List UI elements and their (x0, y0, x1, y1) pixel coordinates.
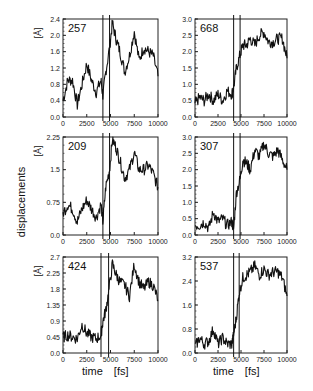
y-tick-label: 2.7 (50, 254, 60, 261)
y-tick-label: 0.9 (50, 318, 60, 325)
y-tick-label: 0.5 (182, 215, 192, 222)
figure-canvas: 0.00.40.81.21.62.02.40250050007500100002… (0, 0, 313, 391)
panel-atom-label: 209 (68, 140, 86, 152)
y-tick-label: 0.8 (182, 326, 192, 333)
x-tick-label: 5000 (103, 120, 119, 127)
x-tick-label: 7500 (126, 120, 142, 127)
displacement-series (63, 260, 158, 344)
x-tick-label: 10000 (148, 238, 168, 245)
x-tick-label: 5000 (233, 238, 249, 245)
x-tick-label: 5000 (103, 238, 119, 245)
panel-257: 0.00.40.81.21.62.02.40250050007500100002… (33, 15, 168, 127)
x-axis-label-right: time [fs] (213, 365, 260, 377)
x-axis-label-left: time [fs] (82, 365, 129, 377)
x-tick-label: 2500 (79, 356, 95, 363)
x-axis-label-unit: [fs] (114, 365, 129, 377)
x-tick-label: 2500 (210, 356, 226, 363)
y-tick-label: 1.6 (182, 302, 192, 309)
panel-atom-label: 537 (200, 260, 218, 272)
x-tick-label: 2500 (79, 120, 95, 127)
y-tick-label: 0.8 (50, 81, 60, 88)
y-tick-label: 2.5 (182, 150, 192, 157)
panel-209: 0.00.751.52.25025005000750010000209[Å] (33, 133, 168, 245)
x-tick-label: 7500 (126, 238, 142, 245)
x-axis-label-time: time (82, 365, 103, 377)
displacement-series (195, 261, 287, 350)
panel-atom-label: 424 (68, 260, 86, 272)
panel-atom-label: 257 (68, 22, 86, 34)
x-tick-label: 5000 (233, 120, 249, 127)
y-tick-label: 0.0 (50, 350, 60, 357)
x-tick-label: 2500 (210, 120, 226, 127)
x-tick-label: 0 (193, 238, 197, 245)
x-tick-label: 10000 (277, 356, 297, 363)
y-tick-label: 2.4 (182, 278, 192, 285)
y-tick-label: 2.25 (46, 134, 60, 141)
y-tick-label: 0.0 (50, 114, 60, 121)
x-tick-label: 10000 (148, 120, 168, 127)
x-tick-label: 10000 (277, 238, 297, 245)
x-tick-label: 7500 (126, 356, 142, 363)
y-tick-label: 0.0 (182, 350, 192, 357)
y-tick-label: 1.5 (182, 183, 192, 190)
y-tick-label: 0.4 (50, 97, 60, 104)
y-tick-label: 2.0 (50, 32, 60, 39)
x-tick-label: 2500 (210, 238, 226, 245)
panel-307: 0.00.51.01.52.02.53.00250050007500100003… (182, 133, 297, 245)
y-unit-label: [Å] (33, 265, 43, 276)
x-axis-label-time: time (213, 365, 234, 377)
panel-atom-label: 307 (200, 140, 218, 152)
x-tick-label: 0 (193, 120, 197, 127)
panel-537: 0.00.81.62.43.2025005000750010000537 (182, 253, 297, 363)
x-tick-label: 10000 (277, 120, 297, 127)
y-tick-label: 2.0 (182, 166, 192, 173)
y-tick-label: 1.5 (182, 65, 192, 72)
panel-424: 0.00.450.91.351.82.252.70250050007500100… (33, 253, 168, 363)
x-tick-label: 0 (193, 356, 197, 363)
y-tick-label: 0.45 (46, 334, 60, 341)
x-tick-label: 10000 (148, 356, 168, 363)
y-tick-label: 0.0 (50, 232, 60, 239)
y-tick-label: 3.0 (182, 134, 192, 141)
y-unit-label: [Å] (33, 145, 43, 156)
y-tick-label: 3.0 (182, 16, 192, 23)
y-tick-label: 1.5 (50, 166, 60, 173)
y-tick-label: 2.4 (50, 16, 60, 23)
x-tick-label: 5000 (103, 356, 119, 363)
x-tick-label: 5000 (233, 356, 249, 363)
y-tick-label: 0.0 (182, 114, 192, 121)
x-tick-label: 0 (61, 238, 65, 245)
y-tick-label: 2.25 (46, 270, 60, 277)
y-tick-label: 1.6 (50, 48, 60, 55)
displacement-series (195, 142, 287, 232)
x-tick-label: 0 (61, 356, 65, 363)
y-tick-label: 1.35 (46, 302, 60, 309)
x-tick-label: 0 (61, 120, 65, 127)
x-tick-label: 7500 (256, 238, 272, 245)
y-tick-label: 2.0 (182, 48, 192, 55)
y-tick-label: 1.0 (182, 81, 192, 88)
x-tick-label: 7500 (256, 120, 272, 127)
panel-atom-label: 668 (200, 22, 218, 34)
displacement-series (195, 29, 287, 106)
y-tick-label: 1.2 (50, 65, 60, 72)
panel-668: 0.00.51.01.52.02.53.00250050007500100006… (182, 15, 297, 127)
x-axis-label-unit: [fs] (245, 365, 260, 377)
y-tick-label: 2.5 (182, 32, 192, 39)
x-tick-label: 2500 (79, 238, 95, 245)
y-tick-label: 3.2 (182, 254, 192, 261)
y-tick-label: 0.75 (46, 199, 60, 206)
x-tick-label: 7500 (256, 356, 272, 363)
y-tick-label: 1.0 (182, 199, 192, 206)
y-tick-label: 0.0 (182, 232, 192, 239)
y-tick-label: 1.8 (50, 286, 60, 293)
y-unit-label: [Å] (33, 27, 43, 38)
y-tick-label: 0.5 (182, 97, 192, 104)
